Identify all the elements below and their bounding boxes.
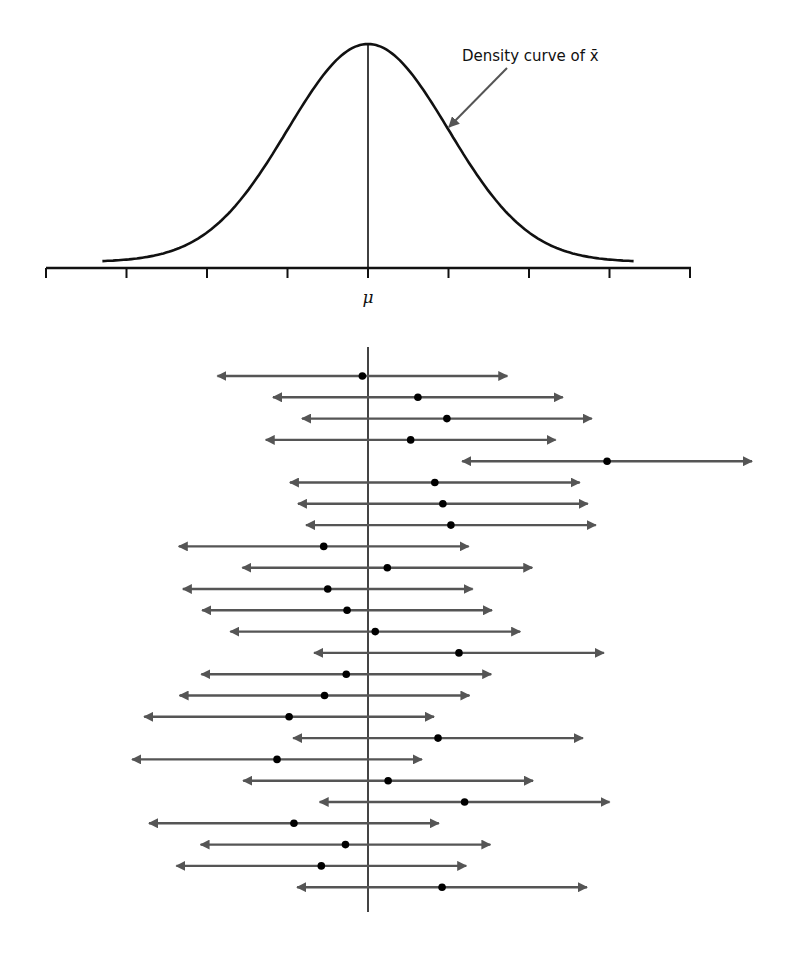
interval-row — [217, 372, 507, 380]
sample-mean-point — [342, 670, 350, 678]
interval-row — [298, 500, 588, 508]
interval-row — [302, 415, 592, 423]
sample-mean-point — [384, 564, 392, 572]
sample-mean-point — [407, 436, 415, 444]
sample-mean-point — [384, 777, 392, 785]
interval-row — [201, 670, 491, 678]
sample-mean-point — [603, 457, 611, 465]
sample-mean-point — [443, 415, 451, 423]
sample-mean-point — [434, 734, 442, 742]
sample-mean-point — [371, 628, 379, 636]
annotation-arrow — [449, 68, 507, 127]
interval-row — [179, 543, 469, 551]
axis-ticks — [46, 268, 690, 278]
interval-row — [320, 798, 610, 806]
sample-mean-point — [324, 585, 332, 593]
sample-mean-point — [320, 543, 328, 551]
interval-row — [180, 692, 470, 700]
sampling-distribution-figure: μ Density curve of x̄ — [0, 0, 795, 955]
interval-row — [243, 777, 533, 785]
confidence-intervals — [132, 347, 752, 912]
sample-mean-point — [342, 841, 350, 849]
interval-row — [242, 564, 532, 572]
interval-row — [293, 734, 583, 742]
sample-mean-point — [431, 479, 439, 487]
interval-row — [273, 394, 563, 402]
mu-label: μ — [362, 287, 373, 307]
sample-mean-point — [285, 713, 293, 721]
interval-row — [306, 521, 596, 529]
sample-mean-point — [455, 649, 463, 657]
sample-mean-point — [290, 820, 298, 828]
density-plot: μ Density curve of x̄ — [46, 44, 691, 307]
interval-row — [297, 883, 587, 891]
sample-mean-point — [343, 607, 351, 615]
interval-row — [149, 820, 439, 828]
interval-row — [314, 649, 604, 657]
interval-row — [290, 479, 580, 487]
sample-mean-point — [461, 798, 469, 806]
sample-mean-point — [318, 862, 326, 870]
interval-row — [176, 862, 466, 870]
interval-row — [230, 628, 520, 636]
interval-row — [183, 585, 473, 593]
interval-row — [266, 436, 556, 444]
interval-row — [462, 457, 752, 465]
sample-mean-point — [273, 756, 281, 764]
sample-mean-point — [414, 394, 422, 402]
interval-row — [202, 607, 492, 615]
sample-mean-point — [447, 521, 455, 529]
density-curve-label: Density curve of x̄ — [462, 47, 599, 65]
interval-row — [132, 756, 422, 764]
sample-mean-point — [438, 883, 446, 891]
sample-mean-point — [359, 372, 367, 380]
sample-mean-point — [321, 692, 329, 700]
interval-row — [201, 841, 491, 849]
interval-row — [144, 713, 434, 721]
sample-mean-point — [439, 500, 447, 508]
